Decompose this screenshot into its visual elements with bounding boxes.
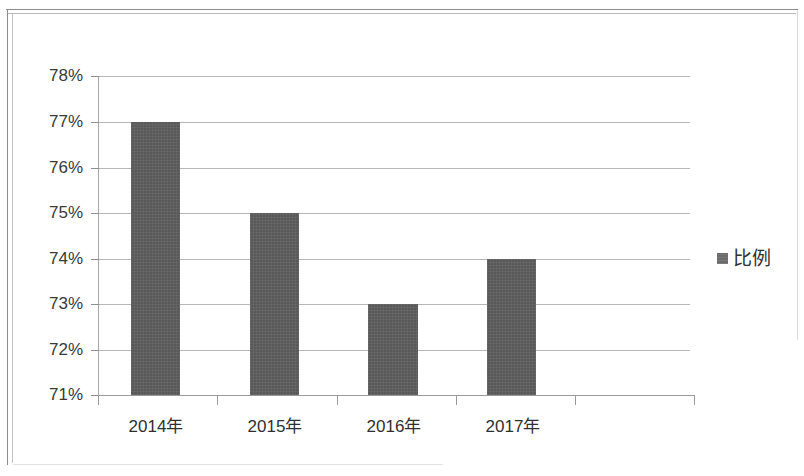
bar-chart-plot-area: 78% 77% 76% 75% 74% 73% 72% 71%: [0, 0, 804, 476]
y-tick-78: [91, 76, 99, 77]
y-axis-label-73-text: 73%: [27, 295, 83, 312]
x-axis-line: [98, 395, 694, 396]
chart-legend: 比例: [717, 249, 771, 268]
legend-square-icon: [717, 253, 728, 264]
gridline-75: [98, 213, 690, 214]
y-axis-label-77-text: 77%: [27, 113, 83, 130]
y-tick-77: [91, 122, 99, 123]
y-axis-label-71: 71%: [27, 386, 83, 404]
y-axis-label-77: 77%: [27, 113, 83, 131]
y-axis-label-72-text: 72%: [27, 341, 83, 358]
gridline-76: [98, 168, 690, 169]
y-axis-label-78-text: 78%: [27, 67, 83, 84]
x-tick-4: [575, 395, 576, 405]
y-axis-label-75: 75%: [27, 204, 83, 222]
y-axis-label-76: 76%: [27, 159, 83, 177]
y-axis-label-73: 73%: [27, 295, 83, 313]
gridline-77: [98, 122, 690, 123]
y-tick-75: [91, 213, 99, 214]
y-tick-73: [91, 304, 99, 305]
gridline-78: [98, 76, 690, 77]
y-axis-label-74-text: 74%: [27, 250, 83, 267]
bar-2014[interactable]: [131, 122, 180, 395]
x-tick-2: [337, 395, 338, 405]
x-axis-label-2016: 2016年: [334, 418, 454, 435]
x-axis-label-2015: 2015年: [215, 418, 335, 435]
x-axis-label-2017: 2017年: [453, 418, 573, 435]
bar-2016[interactable]: [368, 304, 418, 395]
x-tick-5: [694, 395, 695, 405]
bar-2015[interactable]: [250, 213, 299, 395]
bar-2017[interactable]: [487, 259, 536, 395]
legend-item-label: 比例: [733, 249, 771, 268]
y-axis-label-74: 74%: [27, 250, 83, 268]
x-tick-0: [98, 395, 99, 405]
y-axis-line: [98, 76, 99, 396]
y-axis-label-71-text: 71%: [27, 386, 83, 403]
gridline-74: [98, 259, 690, 260]
y-axis-label-75-text: 75%: [27, 204, 83, 221]
chart-screenshot: 78% 77% 76% 75% 74% 73% 72% 71%: [0, 0, 804, 476]
y-tick-72: [91, 350, 99, 351]
y-tick-74: [91, 259, 99, 260]
x-axis-label-2014: 2014年: [96, 418, 216, 435]
y-axis-label-76-text: 76%: [27, 159, 83, 176]
y-tick-76: [91, 168, 99, 169]
y-axis-label-72: 72%: [27, 341, 83, 359]
x-tick-1: [217, 395, 218, 405]
x-tick-3: [456, 395, 457, 405]
y-axis-label-78: 78%: [27, 67, 83, 85]
